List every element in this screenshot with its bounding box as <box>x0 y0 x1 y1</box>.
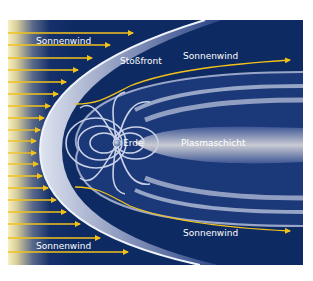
label-solar-wind-bottom-left: Sonnenwind <box>36 241 91 251</box>
label-earth: Erde <box>123 138 144 148</box>
earth-icon <box>113 139 121 147</box>
label-solar-wind-top-right: Sonnenwind <box>183 51 238 61</box>
label-plasma-sheet: Plasmaschicht <box>181 138 246 148</box>
label-solar-wind-top-left: Sonnenwind <box>36 36 91 46</box>
magnetosphere-diagram: Sonnenwind Stoßfront Sonnenwind Erde Pla… <box>0 0 313 281</box>
label-bow-shock: Stoßfront <box>120 56 162 66</box>
label-solar-wind-bottom-right: Sonnenwind <box>183 228 238 238</box>
